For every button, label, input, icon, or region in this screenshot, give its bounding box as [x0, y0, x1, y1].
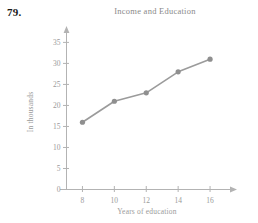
- y-axis-label: In thousands: [26, 92, 35, 133]
- x-axis-arrow-icon: [230, 187, 237, 193]
- figure-container: 79. Income and Education 05101520253035 …: [0, 0, 258, 223]
- data-point-marker: [80, 120, 85, 125]
- y-tick-label: 10: [53, 143, 61, 152]
- x-tick-label: 16: [206, 196, 214, 205]
- y-tick-label: 20: [53, 101, 61, 110]
- x-tick-group: 810121416: [81, 186, 214, 205]
- y-tick-label: 15: [53, 122, 61, 131]
- data-point-marker: [144, 90, 149, 95]
- data-point-marker: [176, 69, 181, 74]
- data-point-marker: [207, 57, 212, 62]
- y-tick-label: 30: [53, 59, 61, 68]
- x-axis-label: Years of education: [117, 207, 177, 216]
- y-tick-label: 25: [53, 80, 61, 89]
- x-tick-label: 10: [111, 196, 119, 205]
- y-tick-label: 5: [57, 164, 61, 173]
- x-tick-label: 12: [143, 196, 151, 205]
- y-axis: [64, 26, 70, 190]
- x-tick-label: 14: [174, 196, 182, 205]
- y-tick-label: 35: [53, 38, 61, 47]
- line-chart: 05101520253035 810121416 Years of educat…: [0, 0, 258, 223]
- y-axis-arrow-icon: [64, 26, 70, 33]
- y-tick-label: 0: [57, 185, 61, 194]
- data-point-marker: [112, 99, 117, 104]
- x-tick-label: 8: [81, 196, 85, 205]
